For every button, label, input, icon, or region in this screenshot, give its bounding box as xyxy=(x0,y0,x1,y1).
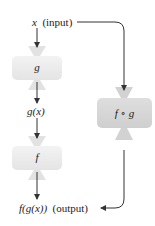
input-var: x xyxy=(32,16,37,28)
machine-fog-label: f ∘ g xyxy=(97,108,152,119)
machine-g-label: g xyxy=(12,62,62,73)
input-label: x (input) xyxy=(32,17,72,28)
arrow-fog-to-output xyxy=(101,150,124,208)
output-note: (output) xyxy=(53,202,88,214)
output-label: f(g(x)) (output) xyxy=(19,203,88,214)
machine-f-label: f xyxy=(12,152,62,163)
intermediate-label: g(x) xyxy=(27,106,45,117)
input-note: (input) xyxy=(42,16,72,28)
arrow-input-to-fog xyxy=(77,22,124,90)
output-expr: f(g(x)) xyxy=(19,202,47,214)
